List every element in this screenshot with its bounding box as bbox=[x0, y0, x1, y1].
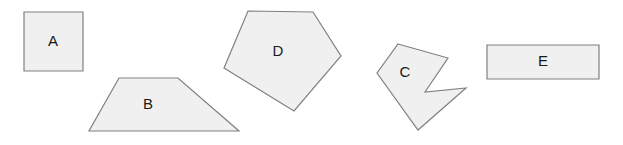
shapes-canvas-container: A B D C E bbox=[0, 0, 623, 145]
shape-a-group[interactable]: A bbox=[24, 12, 83, 71]
shape-a-outline[interactable] bbox=[24, 12, 83, 71]
shape-e-outline[interactable] bbox=[487, 45, 599, 79]
shapes-figure: A B D C E bbox=[0, 0, 623, 145]
shape-e-group[interactable]: E bbox=[487, 45, 599, 79]
